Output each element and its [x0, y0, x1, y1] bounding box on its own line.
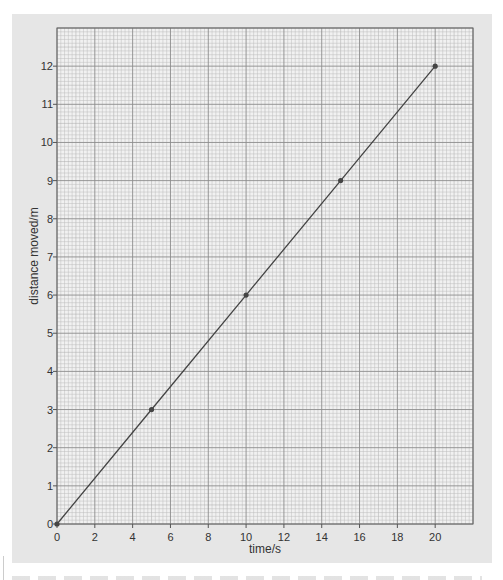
x-tick-label: 2: [92, 531, 98, 543]
y-tick-label: 3: [47, 404, 53, 416]
data-point: [243, 292, 248, 297]
y-tick-label: 10: [41, 136, 53, 148]
y-axis-ticks: 0123456789101112: [41, 60, 57, 530]
y-tick-label: 1: [47, 480, 53, 492]
y-tick-label: 11: [42, 98, 53, 110]
x-tick-label: 18: [391, 531, 403, 543]
y-tick-label: 8: [47, 213, 53, 225]
y-tick-label: 9: [47, 175, 53, 187]
y-tick-label: 4: [47, 365, 53, 377]
caption-fragment-cropped: [12, 576, 482, 580]
data-point: [54, 521, 59, 526]
x-tick-label: 20: [429, 531, 441, 543]
x-tick-label: 4: [130, 531, 136, 543]
y-tick-label: 12: [41, 60, 53, 72]
x-tick-label: 8: [205, 531, 211, 543]
y-tick-label: 7: [47, 251, 53, 263]
x-tick-label: 14: [316, 531, 328, 543]
x-tick-label: 16: [353, 531, 365, 543]
data-point: [149, 407, 154, 412]
data-point: [433, 64, 438, 69]
y-tick-label: 6: [47, 289, 53, 301]
y-tick-label: 0: [47, 518, 53, 530]
y-tick-label: 5: [47, 327, 53, 339]
data-point: [338, 178, 343, 183]
margin-rule: [3, 556, 4, 580]
x-axis-title: time/s: [249, 542, 281, 556]
y-axis-title: distance moved/m: [27, 207, 41, 304]
y-tick-label: 2: [47, 442, 53, 454]
x-axis-ticks: 02468101214161820: [54, 524, 441, 543]
x-tick-label: 0: [54, 531, 60, 543]
chart: 02468101214161820 0123456789101112 time/…: [0, 0, 503, 580]
x-tick-label: 6: [167, 531, 173, 543]
